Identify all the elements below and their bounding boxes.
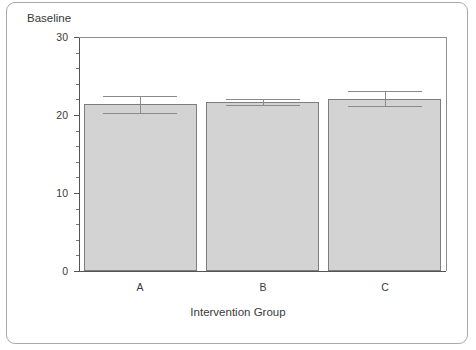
bar-chart: Baseline Intervention Group 0102030ABC [0,0,476,350]
y-tick-minor [76,53,79,54]
y-tick-minor [76,177,79,178]
y-tick-label: 30 [34,31,68,43]
y-tick-major [74,193,79,194]
y-tick-minor [76,99,79,100]
y-tick-minor [76,224,79,225]
x-tick-label-A: A [110,281,170,293]
errorbar-cap-upper-C [348,91,422,92]
errorbar-cap-upper-A [103,96,177,97]
errorbar-cap-lower-A [103,113,177,114]
x-axis-line [79,271,446,272]
bar-A [84,104,197,271]
x-tick-label-B: B [233,281,293,293]
y-axis-line [79,37,80,272]
errorbar-line-A [140,96,141,113]
bar-C [328,99,441,271]
errorbar-cap-upper-B [226,99,300,100]
y-axis-title: Baseline [27,12,71,24]
y-tick-minor [76,146,79,147]
y-tick-minor [76,162,79,163]
errorbar-cap-lower-B [226,105,300,106]
errorbar-cap-lower-C [348,106,422,107]
y-tick-major [74,115,79,116]
y-tick-major [74,37,79,38]
y-tick-minor [76,240,79,241]
y-tick-minor [76,131,79,132]
y-tick-minor [76,255,79,256]
y-tick-label: 0 [34,265,68,277]
x-axis-title: Intervention Group [0,306,476,318]
y-tick-label: 20 [34,109,68,121]
y-tick-label: 10 [34,187,68,199]
bar-B [206,102,319,271]
y-tick-major [74,271,79,272]
y-tick-minor [76,209,79,210]
errorbar-line-C [385,91,386,106]
plot-top-border [79,37,446,38]
plot-right-border [446,37,447,271]
y-tick-minor [76,84,79,85]
y-tick-minor [76,68,79,69]
x-tick-label-C: C [355,281,415,293]
